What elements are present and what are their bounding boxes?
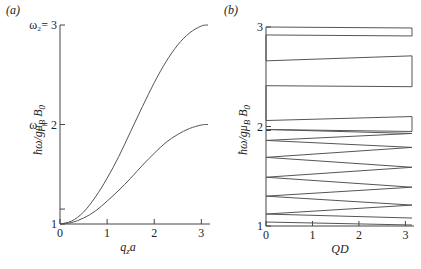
data-series-line <box>266 27 412 218</box>
data-series-line <box>60 25 208 224</box>
panel-b-ylabel: ħω/gμB B0 <box>236 104 252 155</box>
data-series-line <box>266 222 412 225</box>
y-tick-label: 1 <box>257 219 263 233</box>
x-tick-label: 0 <box>263 228 269 242</box>
y-tick-label: 3 <box>257 20 263 34</box>
x-tick-label: 3 <box>402 228 408 242</box>
panel-b-label: (b) <box>224 3 238 17</box>
panel-a: (a) 01231ω₁= 2ω₂= 3 ħω/gμB B0 qza <box>6 3 210 256</box>
panel-b: (b) 0123123 ħω/gμB B0 QD <box>224 3 414 256</box>
panel-b-xlabel: QD <box>331 242 349 256</box>
panel-b-curves <box>266 27 412 225</box>
x-tick-label: 2 <box>356 228 362 242</box>
panel-a-ylabel: ħω/gμB B0 <box>31 104 47 155</box>
figure: (a) 01231ω₁= 2ω₂= 3 ħω/gμB B0 qza (b) 01… <box>0 0 421 269</box>
panel-a-xlabel: qza <box>120 240 136 256</box>
x-tick-label: 1 <box>104 226 110 240</box>
y-tick-label: ω₂= 3 <box>29 18 57 32</box>
panel-a-ticks: 01231ω₁= 2ω₂= 3 <box>29 18 204 240</box>
x-tick-label: 0 <box>57 226 63 240</box>
x-tick-label: 2 <box>151 226 157 240</box>
panel-a-axes <box>60 25 210 224</box>
x-tick-label: 1 <box>309 228 315 242</box>
y-tick-label: 1 <box>51 217 57 231</box>
x-tick-label: 3 <box>198 226 204 240</box>
y-tick-label: 2 <box>257 120 263 134</box>
panel-a-label: (a) <box>6 3 20 17</box>
panel-a-curves <box>60 25 208 224</box>
data-series-line <box>60 125 208 225</box>
